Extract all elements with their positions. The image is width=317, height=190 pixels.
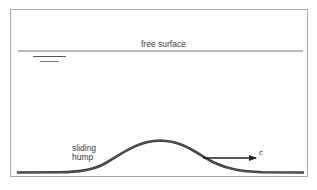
water-level-icon bbox=[33, 57, 66, 62]
sliding-hump-label-line2: hump bbox=[72, 153, 93, 162]
free-surface-label: free surface bbox=[141, 40, 186, 49]
diagram-canvas bbox=[0, 0, 317, 190]
velocity-label: c bbox=[259, 148, 263, 157]
